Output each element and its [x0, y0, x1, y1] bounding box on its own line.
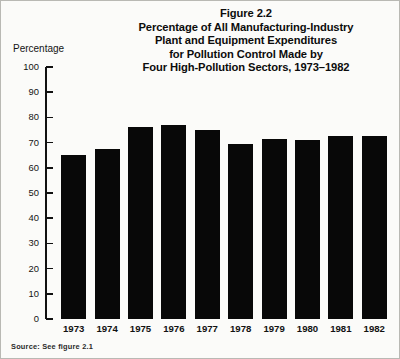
figure-title: Figure 2.2 Percentage of All Manufacturi… [96, 7, 396, 75]
x-axis-label: 1976 [157, 323, 190, 334]
x-axis-label: 1980 [291, 323, 324, 334]
y-tick-label: 20 [29, 263, 39, 274]
figure-title-line-1: Figure 2.2 [96, 7, 396, 21]
y-tick-label: 80 [29, 111, 39, 122]
x-axis-label: 1982 [358, 323, 391, 334]
bar [228, 144, 253, 319]
bar [61, 155, 86, 319]
bar [295, 140, 320, 319]
x-axis-label: 1973 [57, 323, 90, 334]
y-tick-label: 30 [29, 237, 39, 248]
bar [262, 139, 287, 319]
figure-title-line-3: Plant and Equipment Expenditures [96, 34, 396, 48]
figure-title-line-2: Percentage of All Manufacturing-Industry [96, 21, 396, 35]
y-tick-label: 50 [29, 187, 39, 198]
bar [128, 127, 153, 319]
x-axis-label: 1978 [224, 323, 257, 334]
bar [95, 149, 120, 319]
source-note: Source: See figure 2.1 [11, 342, 93, 351]
y-tick-label: 10 [29, 288, 39, 299]
bar [195, 130, 220, 319]
figure-title-line-4: for Pollution Control Made by [96, 48, 396, 62]
bar [161, 125, 186, 319]
y-tick-label: 100 [23, 61, 39, 72]
plot-area: 0102030405060708090100 [45, 67, 389, 319]
bar-series [45, 67, 389, 319]
x-axis-label: 1981 [324, 323, 357, 334]
x-axis-label: 1977 [191, 323, 224, 334]
bar [362, 136, 387, 319]
y-tick-label: 40 [29, 212, 39, 223]
y-tick-label: 60 [29, 162, 39, 173]
x-axis-label: 1974 [90, 323, 123, 334]
y-axis-title: Percentage [13, 43, 64, 54]
y-tick-label: 70 [29, 137, 39, 148]
figure-container: Figure 2.2 Percentage of All Manufacturi… [0, 0, 400, 359]
y-tick-label: 90 [29, 86, 39, 97]
x-axis-label: 1975 [124, 323, 157, 334]
x-axis-label: 1979 [257, 323, 290, 334]
x-axis-labels: 1973197419751976197719781979198019811982 [45, 323, 389, 337]
y-tick-label: 0 [34, 313, 39, 324]
bar [328, 136, 353, 319]
